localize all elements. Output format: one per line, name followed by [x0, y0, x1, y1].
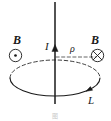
- circle-cross-icon: [91, 49, 103, 61]
- current-label: I: [45, 41, 49, 52]
- circle-dot-icon: [9, 49, 21, 61]
- current-direction-up-arrow-icon: [52, 45, 58, 52]
- figure-caption: 图: [0, 111, 111, 120]
- magnetic-field-label-right: B: [91, 34, 99, 46]
- physics-figure: B B I ρ L 图: [0, 0, 111, 121]
- figure-drawing-canvas: [0, 0, 111, 121]
- radius-label-rho: ρ: [70, 44, 75, 54]
- loop-label: L: [88, 95, 94, 106]
- magnetic-field-label-left: B: [13, 34, 21, 46]
- loop-direction-arrow-icon: [86, 87, 93, 92]
